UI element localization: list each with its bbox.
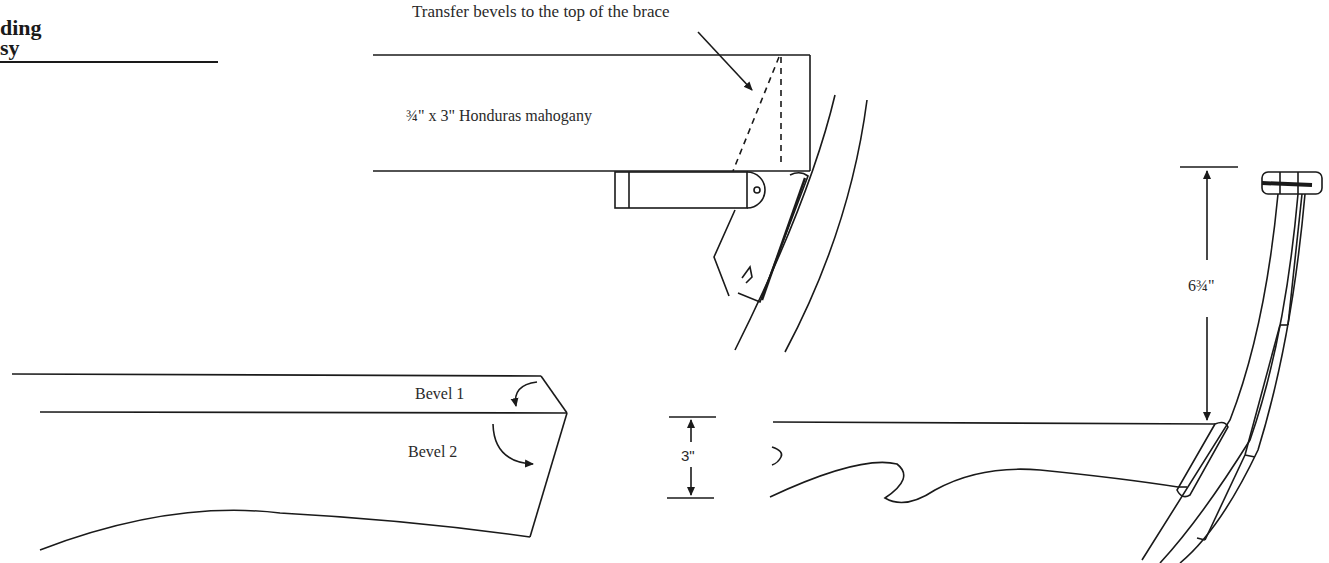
bevel-1-label: Bevel 1	[415, 385, 464, 403]
technical-drawing	[0, 0, 1329, 563]
stock-label: ¾" x 3" Honduras mahogany	[406, 107, 592, 125]
callout-transfer-bevels: Transfer bevels to the top of the brace	[412, 2, 670, 22]
dimension-6-3-4-inch: 6¾"	[1188, 277, 1215, 295]
bevel-2-label: Bevel 2	[408, 443, 457, 461]
profile-figure	[667, 417, 1215, 503]
side-view-figure	[1142, 167, 1322, 563]
dimension-3-inch: 3"	[681, 447, 695, 464]
bevel-figure	[12, 374, 567, 550]
brace-stock-figure	[373, 32, 867, 352]
